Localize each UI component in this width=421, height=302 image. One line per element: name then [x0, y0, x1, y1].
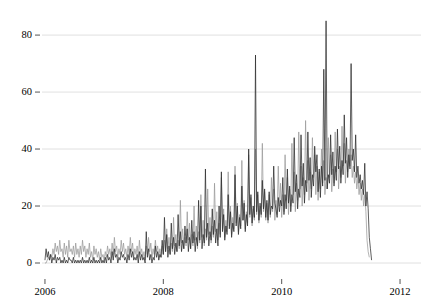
x-axis-label-2012: 2012 — [380, 287, 420, 298]
y-tick-mark-group — [35, 35, 40, 263]
time-series-chart: 806040200 2006200820102012 — [0, 0, 421, 302]
x-axis-label-2006: 2006 — [25, 287, 65, 298]
data-series-group — [45, 21, 372, 263]
chart-plot-area — [0, 0, 421, 302]
x-tick-mark-group — [45, 279, 400, 284]
y-axis-label-60: 60 — [6, 87, 32, 98]
x-axis-label-2010: 2010 — [262, 287, 302, 298]
y-axis-label-0: 0 — [6, 258, 32, 269]
y-axis-label-40: 40 — [6, 144, 32, 155]
x-axis-label-2008: 2008 — [143, 287, 183, 298]
y-axis-label-80: 80 — [6, 30, 32, 41]
y-axis-label-20: 20 — [6, 201, 32, 212]
